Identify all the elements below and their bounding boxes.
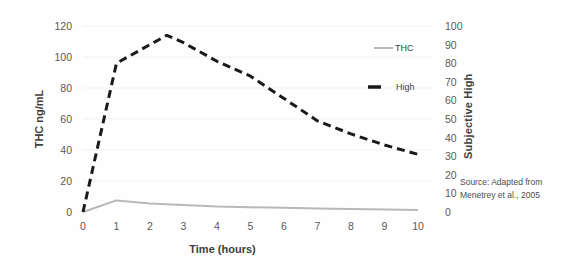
right-axis-tick-label: 70 (445, 76, 457, 88)
right-axis-tick-label: 60 (445, 94, 457, 106)
legend-label-thc: THC (395, 43, 414, 53)
chart-figure: 020406080100120 0102030405060708090100 0… (0, 0, 567, 269)
x-axis-tick-label: 8 (340, 220, 362, 232)
source-note-line2: Menetrey et al., 2005 (460, 189, 542, 202)
x-axis-tick-label: 3 (173, 220, 195, 232)
x-axis-tick-label: 5 (240, 220, 262, 232)
left-axis-tick-label: 0 (38, 206, 72, 218)
right-axis-tick-label: 80 (445, 57, 457, 69)
x-axis-tick-label: 6 (273, 220, 295, 232)
source-note-line1: Source: Adapted from (460, 176, 542, 189)
right-axis-tick-label: 90 (445, 39, 457, 51)
right-axis-tick-label: 100 (445, 20, 463, 32)
x-axis-tick-label: 4 (206, 220, 228, 232)
x-axis-title: Time (hours) (150, 243, 295, 255)
left-axis-tick-label: 120 (38, 20, 72, 32)
high-series-line (83, 35, 418, 212)
x-axis-tick-label: 2 (139, 220, 161, 232)
right-axis-tick-label: 30 (445, 150, 457, 162)
x-axis-tick-label: 1 (106, 220, 128, 232)
gridlines (83, 26, 432, 181)
right-axis-tick-label: 10 (445, 187, 457, 199)
x-axis-tick-label: 9 (374, 220, 396, 232)
right-axis-title: Subjective High (462, 79, 474, 159)
source-note: Source: Adapted from Menetrey et al., 20… (460, 176, 542, 202)
left-axis-title: THC ng/mL (33, 61, 45, 177)
right-axis-tick-label: 40 (445, 132, 457, 144)
x-axis-tick-label: 7 (307, 220, 329, 232)
right-axis-tick-label: 0 (445, 206, 451, 218)
x-axis-tick-label: 10 (407, 220, 429, 232)
x-axis-tick-label: 0 (72, 220, 94, 232)
right-axis-tick-label: 50 (445, 113, 457, 125)
right-axis-tick-label: 20 (445, 169, 457, 181)
thc-series-line (83, 200, 418, 212)
legend-label-high: High (396, 82, 415, 92)
